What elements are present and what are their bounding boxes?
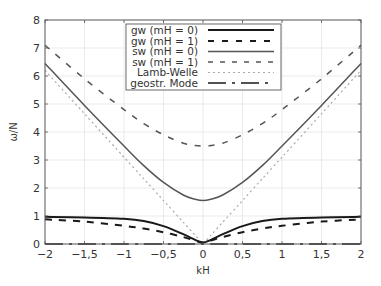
y-tick-label: 4 xyxy=(33,126,40,139)
x-tick-label: 1,5 xyxy=(313,248,331,261)
y-tick-label: 7 xyxy=(33,42,40,55)
y-tick-label: 8 xyxy=(33,14,40,27)
x-tick-label: 0,5 xyxy=(234,248,252,261)
x-tick-label: −1,5 xyxy=(71,248,98,261)
x-axis-label: kH xyxy=(196,265,209,276)
dispersion-chart: −2−1,5−1−0,500,511,52012345678 kH ω/N gw… xyxy=(0,0,381,286)
y-tick-label: 2 xyxy=(33,182,40,195)
x-tick-label: −0,5 xyxy=(150,248,177,261)
y-tick-label: 3 xyxy=(33,154,40,167)
x-tick-label: 2 xyxy=(358,248,365,261)
legend: gw (mH = 0) gw (mH = 1) sw (mH = 0) sw (… xyxy=(126,24,281,90)
y-tick-label: 0 xyxy=(33,238,40,251)
x-tick-label: −1 xyxy=(116,248,132,261)
x-tick-label: 0 xyxy=(200,248,207,261)
legend-label-geostr: geostr. Mode xyxy=(130,77,198,89)
y-tick-label: 1 xyxy=(33,210,40,223)
x-tick-label: 1 xyxy=(279,248,286,261)
y-tick-label: 6 xyxy=(33,70,40,83)
y-axis-label: ω/N xyxy=(8,122,19,141)
y-tick-label: 5 xyxy=(33,98,40,111)
